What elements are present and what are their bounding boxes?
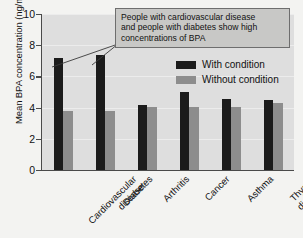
bar-without-condition: [189, 107, 199, 170]
bar-without-condition: [231, 107, 241, 170]
legend-swatch-icon-with-condition: [176, 61, 196, 69]
legend-item-without-condition: Without condition: [176, 74, 279, 85]
y-tick-label: 4: [5, 102, 35, 114]
legend-swatch-icon-without-condition: [176, 76, 196, 84]
annotation-callout: People with cardiovascular disease and p…: [115, 8, 290, 48]
legend: With condition Without condition: [176, 59, 279, 89]
bar-with-condition: [96, 55, 105, 170]
bar-without-condition: [273, 103, 283, 170]
bar-group: [96, 14, 115, 170]
y-tick-label: 0: [5, 164, 35, 176]
bar-group: [54, 14, 73, 170]
y-tick-label: 10: [5, 8, 35, 20]
x-axis-label-line: Arthritis: [161, 174, 191, 204]
bar-with-condition: [222, 99, 231, 170]
legend-item-with-condition: With condition: [176, 59, 279, 70]
bar-with-condition: [138, 105, 147, 170]
y-axis-title: Mean BPA concentration (ng/ml): [13, 0, 24, 138]
legend-label-without-condition: Without condition: [202, 74, 279, 85]
x-axis-label: Thyroiddisease: [287, 174, 303, 212]
bar-with-condition: [54, 58, 63, 170]
annotation-line-1: People with cardiovascular disease: [121, 12, 285, 22]
bar-without-condition: [105, 111, 115, 170]
y-tick-label: 2: [5, 133, 35, 145]
bar-with-condition: [264, 100, 273, 170]
x-axis-label: Asthma: [245, 174, 275, 204]
annotation-line-3: concentrations of BPA: [121, 33, 285, 43]
x-axis-line: [41, 170, 294, 171]
x-axis-label-line: Cancer: [202, 174, 231, 203]
bar-without-condition: [147, 107, 157, 170]
gridline: [42, 139, 294, 140]
bar-chart-figure: Mean BPA concentration (ng/ml) 0246810 C…: [0, 0, 303, 238]
y-tick-label: 6: [5, 70, 35, 82]
bar-with-condition: [180, 92, 189, 170]
x-axis-label: Cancer: [202, 174, 231, 203]
x-axis-label-line: Asthma: [245, 174, 275, 204]
x-axis-label: Arthritis: [161, 174, 191, 204]
gridline: [42, 108, 294, 109]
legend-label-with-condition: With condition: [202, 59, 265, 70]
y-axis-line: [41, 14, 42, 171]
y-tick-label: 8: [5, 39, 35, 51]
annotation-line-2: and people with diabetes show high: [121, 22, 285, 32]
bar-without-condition: [63, 111, 73, 170]
